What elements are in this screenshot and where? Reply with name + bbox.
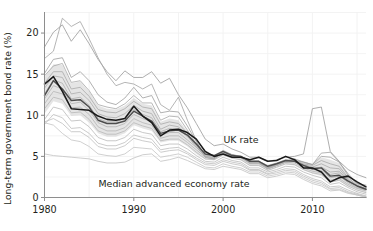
y-tick-label: 5: [32, 151, 38, 162]
x-axis-ticks: 1980199020002010: [32, 198, 324, 215]
chart-annotation-label: Median advanced economy rate: [99, 178, 250, 189]
x-tick-label: 1990: [122, 204, 146, 215]
y-tick-label: 15: [26, 69, 38, 80]
y-axis-label: Long-term government bond rate (%): [2, 32, 13, 205]
chart-annotation-label: UK rate: [223, 134, 258, 145]
y-tick-label: 0: [32, 192, 38, 203]
bond-rate-line-chart: 05101520 1980199020002010 Long-term gove…: [0, 0, 373, 231]
y-tick-label: 10: [26, 110, 38, 121]
y-axis-ticks: 05101520: [26, 27, 44, 202]
x-tick-label: 1980: [32, 204, 56, 215]
y-tick-label: 20: [26, 27, 38, 38]
chart-container: 05101520 1980199020002010 Long-term gove…: [0, 0, 373, 231]
x-tick-label: 2000: [211, 204, 235, 215]
x-tick-label: 2010: [300, 204, 324, 215]
